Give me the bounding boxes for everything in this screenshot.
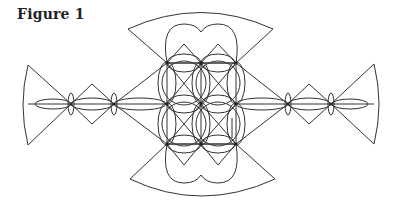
left-fan — [23, 65, 71, 145]
top-fan — [128, 13, 273, 64]
left-chain — [28, 84, 167, 124]
bottom-fan — [130, 144, 275, 196]
geometric-diagram — [0, 0, 403, 209]
right-chain — [236, 84, 374, 124]
